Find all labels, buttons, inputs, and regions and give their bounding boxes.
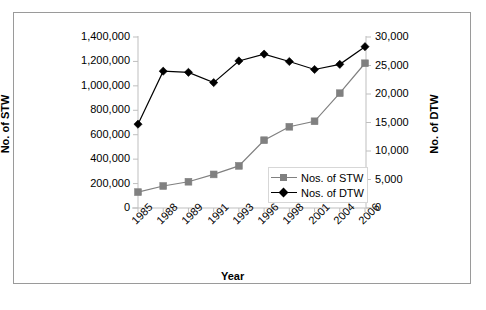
data-point-marker xyxy=(285,57,293,65)
data-point-marker xyxy=(134,120,142,128)
left-axis-tick-label: 200,000 xyxy=(58,177,130,189)
series-line xyxy=(138,47,365,125)
data-point-marker xyxy=(362,60,369,67)
left-axis-tick-label: 600,000 xyxy=(58,128,130,140)
data-point-marker xyxy=(135,189,142,196)
left-axis-tick-label: 800,000 xyxy=(58,103,130,115)
legend-label: Nos. of STW xyxy=(297,172,363,184)
left-axis-tick-label: 1,200,000 xyxy=(58,54,130,66)
x-axis-title: Year xyxy=(221,270,244,282)
chart-figure: No. of STW No. of DTW Year 0200,000400,0… xyxy=(0,0,486,310)
legend-marker-icon xyxy=(271,186,297,199)
data-point-marker xyxy=(159,67,167,75)
data-point-marker xyxy=(310,65,318,73)
left-axis-tick-label: 0 xyxy=(58,201,130,213)
data-point-marker xyxy=(185,178,192,185)
data-point-marker xyxy=(336,90,343,97)
right-axis-tick-label: 30,000 xyxy=(375,30,435,42)
data-point-marker xyxy=(260,50,268,58)
left-axis-tick-label: 1,000,000 xyxy=(58,79,130,91)
data-point-marker xyxy=(184,68,192,76)
left-axis-tick-label: 400,000 xyxy=(58,152,130,164)
left-axis-tick-label: 1,400,000 xyxy=(58,30,130,42)
legend-item: Nos. of STW xyxy=(271,170,364,185)
data-point-marker xyxy=(235,162,242,169)
legend-label: Nos. of DTW xyxy=(297,187,364,199)
left-axis-title: No. of STW xyxy=(0,95,11,154)
data-point-marker xyxy=(160,183,167,190)
right-axis-tick-label: 5,000 xyxy=(375,173,435,185)
data-point-marker xyxy=(210,171,217,178)
right-axis-tick-label: 20,000 xyxy=(375,87,435,99)
legend-marker-icon xyxy=(271,171,297,184)
data-point-marker xyxy=(311,118,318,125)
legend-square-icon xyxy=(280,174,287,181)
right-axis-tick-label: 15,000 xyxy=(375,116,435,128)
data-point-marker xyxy=(336,60,344,68)
data-point-marker xyxy=(261,137,268,144)
right-axis-tick-label: 10,000 xyxy=(375,144,435,156)
right-axis-tick-label: 0 xyxy=(375,201,435,213)
data-point-marker xyxy=(286,123,293,130)
data-point-marker xyxy=(361,43,369,51)
series-nos-of-dtw xyxy=(134,43,369,129)
legend-item: Nos. of DTW xyxy=(271,185,364,200)
chart-legend: Nos. of STWNos. of DTW xyxy=(268,167,368,203)
legend-diamond-icon xyxy=(279,188,289,198)
right-axis-tick-label: 25,000 xyxy=(375,59,435,71)
